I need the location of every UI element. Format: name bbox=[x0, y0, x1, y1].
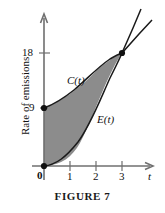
x-tick-label-1: 1 bbox=[67, 170, 73, 182]
x-tick-label-3: 3 bbox=[119, 170, 125, 182]
curve-label-E: E(t) bbox=[97, 113, 114, 125]
x-tick-label-2: 2 bbox=[93, 170, 99, 182]
y-tick-label-18: 18 bbox=[22, 46, 33, 58]
point-intersection bbox=[119, 50, 125, 56]
y-axis-label: Rate of emissions bbox=[19, 57, 31, 135]
x-tick-label-0: 0 bbox=[37, 169, 43, 181]
figure-caption: FIGURE 7 bbox=[0, 190, 165, 202]
shaded-region-between-curves bbox=[44, 53, 122, 166]
y-tick-label-9: 9 bbox=[29, 101, 35, 113]
curve-label-C: C(t) bbox=[67, 74, 85, 86]
x-axis-name: t bbox=[148, 170, 151, 182]
figure-7: Rate of emissions 18 9 0 1 2 3 t C(t) E(… bbox=[0, 0, 165, 213]
point-C-start bbox=[41, 105, 47, 111]
